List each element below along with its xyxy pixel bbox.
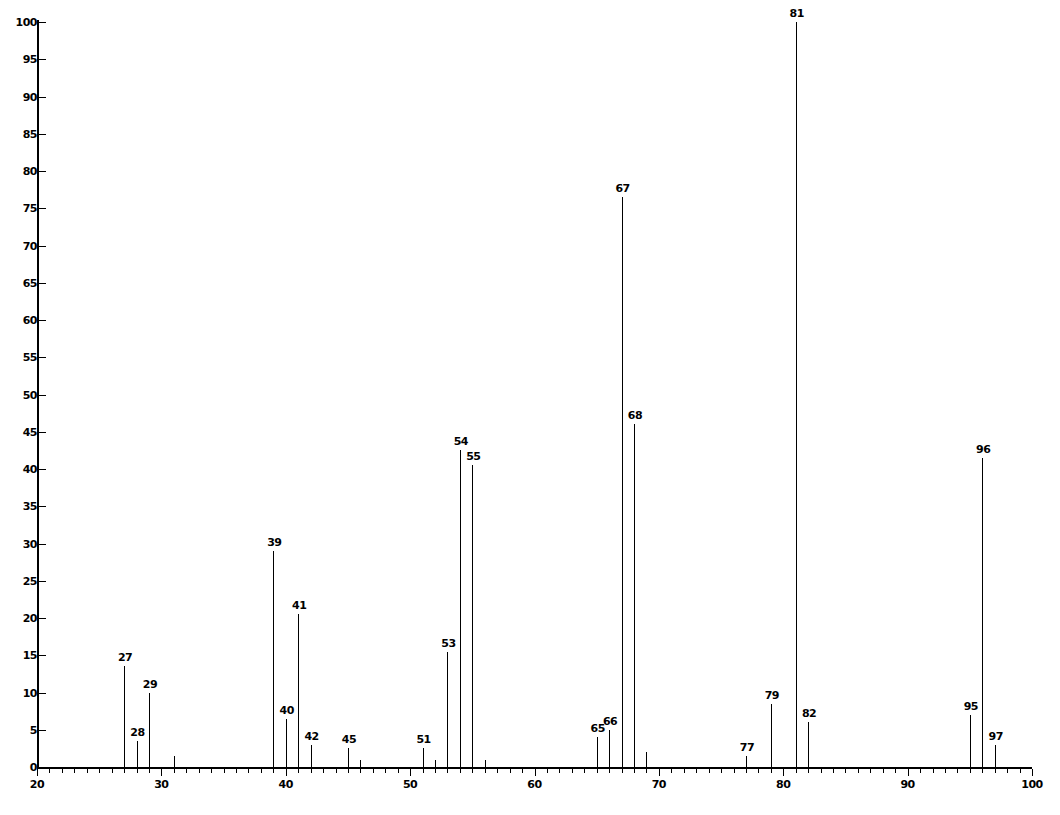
x-axis-minor-tick [273,769,274,773]
y-axis-tick-label: 70 [23,241,37,252]
x-axis-tick-label: 100 [1021,779,1042,790]
peak-mz-label: 66 [603,716,617,727]
y-axis-tick [39,357,46,358]
peak-mz-label: 77 [740,742,754,753]
x-axis-major-tick [659,769,660,776]
spectrum-peak [273,551,274,767]
x-axis-minor-tick [385,769,386,773]
y-axis-tick-label: 60 [23,315,37,326]
x-axis-minor-tick [970,769,971,773]
x-axis-minor-tick [360,769,361,773]
spectrum-peak [634,424,635,767]
y-axis-tick-label: 5 [30,725,37,736]
spectrum-peak [435,760,436,767]
x-axis-minor-tick [646,769,647,773]
y-axis-tick-label: 65 [23,278,37,289]
y-axis-tick [39,395,46,396]
spectrum-peak [460,450,461,767]
peak-mz-label: 82 [802,708,816,719]
x-axis-minor-tick [211,769,212,773]
y-axis-tick [39,432,46,433]
x-axis-minor-tick [696,769,697,773]
y-axis-tick-label: 25 [23,576,37,587]
x-axis-minor-tick [597,769,598,773]
x-axis-minor-tick [298,769,299,773]
x-axis-minor-tick [510,769,511,773]
x-axis-minor-tick [323,769,324,773]
y-axis-tick-label: 40 [23,464,37,475]
x-axis-minor-tick [460,769,461,773]
x-axis-minor-tick [721,769,722,773]
x-axis-minor-tick [771,769,772,773]
y-axis-tick [39,767,46,768]
x-axis-major-tick [286,769,287,776]
y-axis-tick [39,208,46,209]
peak-mz-label: 51 [416,734,430,745]
x-axis-tick-label: 80 [776,779,790,790]
y-axis-tick-label: 80 [23,166,37,177]
y-axis-tick [39,59,46,60]
x-axis-minor-tick [671,769,672,773]
peak-mz-label: 81 [790,8,804,19]
peak-mz-label: 40 [280,705,294,716]
x-axis-minor-tick [895,769,896,773]
y-axis-tick-label: 45 [23,427,37,438]
spectrum-peak [311,745,312,767]
x-axis-minor-tick [734,769,735,773]
y-axis-tick [39,618,46,619]
x-axis-minor-tick [821,769,822,773]
spectrum-peak [124,666,125,767]
y-axis-tick-label: 90 [23,92,37,103]
y-axis-tick [39,97,46,98]
y-axis-tick-label: 100 [16,17,37,28]
y-axis-tick [39,320,46,321]
x-axis-minor-tick [522,769,523,773]
x-axis-minor-tick [609,769,610,773]
x-axis-minor-tick [348,769,349,773]
peak-mz-label: 97 [989,731,1003,742]
spectrum-peak [746,756,747,767]
y-axis-tick-label: 10 [23,688,37,699]
spectrum-peak [771,704,772,767]
x-axis-tick-label: 20 [30,779,44,790]
peak-mz-label: 79 [765,690,779,701]
y-axis-tick [39,134,46,135]
x-axis-minor-tick [336,769,337,773]
peak-mz-label: 45 [342,734,356,745]
peak-mz-label: 55 [466,451,480,462]
y-axis-tick [39,655,46,656]
spectrum-peak [622,197,623,767]
x-axis-minor-tick [883,769,884,773]
y-axis-tick [39,506,46,507]
x-axis-minor-tick [858,769,859,773]
y-axis-tick-label: 30 [23,539,37,550]
spectrum-peak [982,458,983,767]
peak-mz-label: 29 [143,679,157,690]
spectrum-peak [485,760,486,767]
x-axis-minor-tick [87,769,88,773]
y-axis-tick-label: 50 [23,390,37,401]
x-axis-tick-label: 40 [279,779,293,790]
x-axis-minor-tick [186,769,187,773]
x-axis-minor-tick [758,769,759,773]
x-axis-minor-tick [995,769,996,773]
y-axis-tick-label: 85 [23,129,37,140]
x-axis-minor-tick [112,769,113,773]
x-axis-minor-tick [870,769,871,773]
peak-mz-label: 54 [454,436,468,447]
x-axis-minor-tick [547,769,548,773]
spectrum-peak [970,715,971,767]
y-axis-tick [39,469,46,470]
x-axis-minor-tick [634,769,635,773]
peak-mz-label: 41 [292,600,306,611]
spectrum-peak [646,752,647,767]
spectrum-peak [597,737,598,767]
x-axis-minor-tick [447,769,448,773]
y-axis-tick-label: 55 [23,352,37,363]
spectrum-peak [348,748,349,767]
x-axis-major-tick [535,769,536,776]
y-axis-tick [39,730,46,731]
x-axis-minor-tick [497,769,498,773]
x-axis-minor-tick [74,769,75,773]
x-axis-minor-tick [684,769,685,773]
